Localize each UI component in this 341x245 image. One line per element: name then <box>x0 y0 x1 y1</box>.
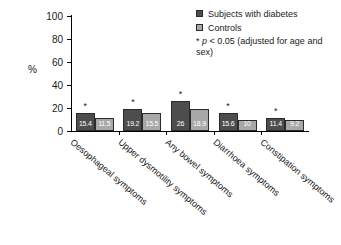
y-tick-mark <box>67 85 71 86</box>
bar: 15.5 <box>142 113 161 131</box>
chart-legend: Subjects with diabetes Controls * p < 0.… <box>196 8 338 58</box>
legend-label-controls: Controls <box>208 22 242 34</box>
bar-value-label: 11.4 <box>270 120 282 130</box>
significance-marker: * <box>226 102 230 111</box>
significance-marker: * <box>84 102 88 111</box>
bar-value-label: 11.5 <box>98 120 110 130</box>
x-axis-category-label: Upper dysmotility symptoms <box>116 137 209 217</box>
x-tick-mark <box>166 131 167 135</box>
bar-value-label: 10 <box>243 120 250 130</box>
y-tick-mark <box>67 62 71 63</box>
x-tick-mark <box>119 131 120 135</box>
bar-value-label: 15.4 <box>79 120 92 130</box>
legend-item-subjects-with-diabetes: Subjects with diabetes <box>196 8 338 20</box>
significance-marker: * <box>131 98 135 107</box>
legend-swatch-light <box>196 24 203 31</box>
significance-note-text: < 0.05 (adjusted for age and sex) <box>196 36 322 57</box>
x-axis-category-label: Oesophageal symptoms <box>69 137 150 207</box>
bar: 11.4 <box>266 118 285 131</box>
significance-marker: * <box>179 90 183 99</box>
legend-label-subjects-with-diabetes: Subjects with diabetes <box>208 8 298 20</box>
bar-value-label: 26 <box>177 120 184 130</box>
bar-value-label: 9.2 <box>290 120 299 130</box>
legend-item-controls: Controls <box>196 22 338 34</box>
bar-group: *15.411.5 <box>76 0 114 131</box>
y-tick-label: 100 <box>0 11 63 22</box>
y-tick-label: 80 <box>0 34 63 45</box>
significance-p-symbol: p <box>202 36 207 46</box>
bar-value-label: 19.2 <box>126 120 139 130</box>
bar-value-label: 18.9 <box>193 120 206 130</box>
y-tick-label: 60 <box>0 57 63 68</box>
bar: 10 <box>238 120 257 132</box>
y-tick-mark <box>67 39 71 40</box>
bar: 15.6 <box>219 113 238 131</box>
y-tick-label: 40 <box>0 80 63 91</box>
y-tick-mark <box>67 131 71 132</box>
bar-value-label: 15.6 <box>222 120 235 130</box>
y-tick-mark <box>67 108 71 109</box>
bar: 18.9 <box>190 109 209 131</box>
x-tick-mark <box>214 131 215 135</box>
significance-asterisk: * <box>196 36 200 46</box>
y-tick-label: 0 <box>0 126 63 137</box>
x-axis-line <box>71 131 309 132</box>
bar: 19.2 <box>123 109 142 131</box>
y-tick-mark <box>67 16 71 17</box>
bar-group: *19.215.5 <box>123 0 161 131</box>
y-tick-label: 20 <box>0 103 63 114</box>
significance-marker: * <box>274 107 278 116</box>
legend-swatch-dark <box>196 10 203 17</box>
bar: 9.2 <box>285 120 304 131</box>
significance-note: * p < 0.05 (adjusted for age and sex) <box>196 36 338 58</box>
bar: 26 <box>171 101 190 131</box>
x-tick-mark <box>261 131 262 135</box>
bar: 11.5 <box>95 118 114 131</box>
y-axis-line <box>71 15 72 132</box>
bar-chart: % 020406080100 *15.411.5*19.215.5*2618.9… <box>0 0 341 245</box>
bar: 15.4 <box>76 113 95 131</box>
bar-value-label: 15.5 <box>145 120 158 130</box>
